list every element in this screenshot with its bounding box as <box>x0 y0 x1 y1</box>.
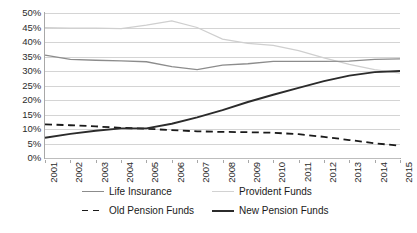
x-axis-tick-label: 2009 <box>252 162 262 183</box>
line-chart: 50%45%40%35%30%25%20%15%10%5%0% 20012002… <box>0 0 417 233</box>
y-axis-tick-label: 0% <box>0 153 41 163</box>
x-axis-tick <box>45 160 46 163</box>
y-axis-tick-label: 30% <box>0 66 41 76</box>
gridline <box>45 158 400 159</box>
chart-legend: Life Insurance Provident Funds Old Pensi… <box>0 186 417 232</box>
y-axis-tick-label: 35% <box>0 52 41 62</box>
y-axis-labels: 50%45%40%35%30%25%20%15%10%5%0% <box>0 0 41 171</box>
x-axis-tick <box>197 160 198 163</box>
x-axis-tick-label: 2004 <box>125 162 135 183</box>
series-layer <box>45 13 400 158</box>
x-axis-tick-label: 2002 <box>74 162 84 183</box>
x-axis-tick-label: 2008 <box>227 162 237 183</box>
x-axis-tick <box>273 160 274 163</box>
legend-item-old-pension-funds[interactable]: Old Pension Funds <box>82 205 194 217</box>
x-axis-tick-label: 2003 <box>100 162 110 183</box>
line-solid-lightgray-icon <box>212 187 234 197</box>
x-axis-tick <box>400 160 401 163</box>
line-solid-gray-icon <box>82 187 104 197</box>
series-line-new-pension-funds <box>45 71 400 138</box>
x-axis-tick <box>96 160 97 163</box>
x-axis-tick-label: 2006 <box>176 162 186 183</box>
x-axis-tick-label: 2015 <box>404 162 414 183</box>
legend-item-provident-funds[interactable]: Provident Funds <box>212 186 312 198</box>
y-axis-tick-label: 40% <box>0 37 41 47</box>
legend-label: Life Insurance <box>109 186 172 198</box>
x-axis-tick-label: 2001 <box>49 162 59 183</box>
y-axis-tick-label: 20% <box>0 95 41 105</box>
legend-label: Old Pension Funds <box>109 205 194 217</box>
x-axis-tick-label: 2011 <box>303 162 313 182</box>
x-axis-tick <box>121 160 122 163</box>
y-axis-tick-label: 5% <box>0 139 41 149</box>
x-axis-tick <box>172 160 173 163</box>
y-axis-tick-label: 15% <box>0 110 41 120</box>
legend-item-life-insurance[interactable]: Life Insurance <box>82 186 172 198</box>
x-axis-tick <box>324 160 325 163</box>
legend-label: New Pension Funds <box>239 205 329 217</box>
x-axis-tick-label: 2012 <box>328 162 338 183</box>
y-axis-tick-label: 50% <box>0 8 41 18</box>
x-axis-tick-label: 2007 <box>201 162 211 183</box>
x-axis-tick <box>299 160 300 163</box>
legend-label: Provident Funds <box>239 186 312 198</box>
series-line-old-pension-funds <box>45 124 400 145</box>
line-solid-black-icon <box>212 206 234 216</box>
x-axis-tick <box>349 160 350 163</box>
plot-area <box>45 13 400 158</box>
y-axis-tick-label: 10% <box>0 124 41 134</box>
x-axis-tick-label: 2010 <box>277 162 287 183</box>
legend-item-new-pension-funds[interactable]: New Pension Funds <box>212 205 329 217</box>
x-axis-tick <box>146 160 147 163</box>
x-axis-tick <box>375 160 376 163</box>
x-axis-tick <box>223 160 224 163</box>
x-axis-tick <box>70 160 71 163</box>
x-axis-tick-label: 2014 <box>379 162 389 183</box>
x-axis-tick-label: 2013 <box>353 162 363 183</box>
line-dashed-black-icon <box>82 206 104 216</box>
series-line-life-insurance <box>45 55 400 70</box>
y-axis-tick-label: 45% <box>0 23 41 33</box>
x-axis-tick <box>248 160 249 163</box>
x-axis-tick-label: 2005 <box>150 162 160 183</box>
y-axis-tick-label: 25% <box>0 81 41 91</box>
